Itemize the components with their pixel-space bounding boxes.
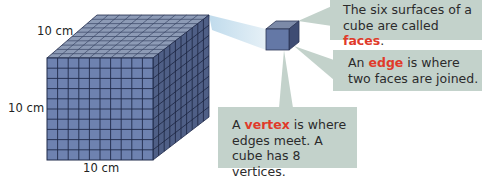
callout-vertex-line1: A vertex is where (232, 117, 357, 133)
keyword-vertex: vertex (245, 117, 290, 132)
callout-vertex: A vertex is where edges meet. A cube has… (218, 107, 357, 168)
callout-faces-line1: The six surfaces of a (343, 2, 482, 18)
callout-vertex-line3: cube has 8 vertices. (232, 148, 357, 179)
callout-faces-line2: cube are called faces. (343, 18, 482, 49)
callout-edge-line1: An edge is where (348, 55, 482, 71)
edge-pointer (294, 46, 334, 80)
callout-vertex-line2: edges meet. A (232, 133, 357, 149)
dimension-label-height: 10 cm (8, 101, 44, 115)
faces-pointer (298, 6, 332, 26)
callout-faces: The six surfaces of a cube are called fa… (330, 0, 482, 40)
dimension-label-depth: 10 cm (37, 24, 73, 38)
zoom-beam (209, 15, 266, 50)
keyword-edge: edge (368, 55, 403, 70)
callout-edge-line2: two faces are joined. (348, 71, 482, 87)
vertex-pointer (279, 50, 293, 108)
callout-edge: An edge is where two faces are joined. (333, 50, 482, 91)
small-cube (266, 21, 299, 50)
dimension-label-width: 10 cm (83, 161, 119, 175)
keyword-faces: faces (343, 33, 380, 48)
